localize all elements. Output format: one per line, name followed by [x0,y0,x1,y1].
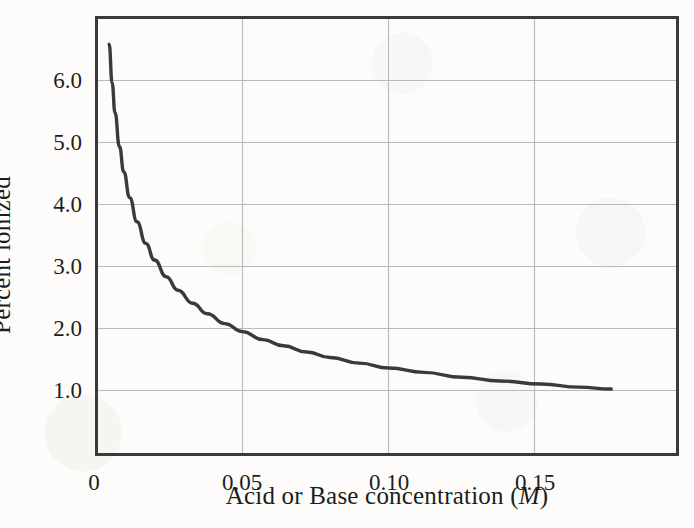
x-axis-title: Acid or Base concentration (M) [226,482,549,510]
y-tick-label-2: 2.0 [24,317,82,340]
x-tick-label-0: 0 [88,471,100,494]
data-curve [109,44,611,389]
x-axis-title-prefix: Acid or Base concentration ( [226,482,519,509]
plot-canvas [0,0,694,528]
y-tick-label-3: 3.0 [24,255,82,278]
y-axis-title: Percent ionized [0,176,16,334]
y-tick-label-5: 5.0 [24,131,82,154]
x-axis-unit-molarity: M [519,482,540,509]
horizontal-gridlines [96,81,678,391]
y-tick-label-4: 4.0 [24,193,82,216]
chart-figure: 6.0 5.0 4.0 3.0 2.0 1.0 0 0.05 0.10 0.15… [0,0,694,528]
y-tick-label-6: 6.0 [24,69,82,92]
y-tick-label-1: 1.0 [24,379,82,402]
x-axis-title-suffix: ) [540,482,549,509]
vertical-gridlines [243,17,535,455]
